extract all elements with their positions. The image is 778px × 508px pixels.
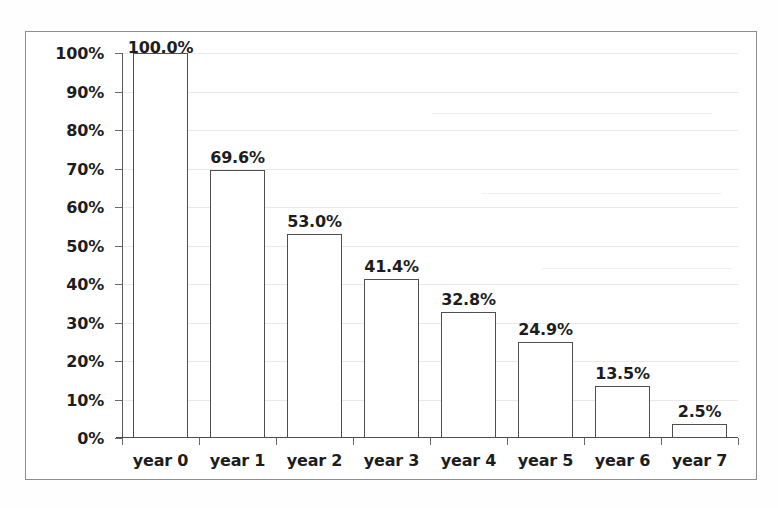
x-axis-tick	[276, 438, 277, 445]
y-axis-tick: 90%	[115, 92, 122, 93]
y-axis-label-0: 0%	[77, 429, 104, 448]
bar-value-label-year-6: 13.5%	[595, 364, 650, 383]
category-label-year-6: year 6	[595, 451, 650, 470]
y-axis-label-80: 80%	[66, 121, 104, 140]
plot-area: 100% 90% 80% 70% 60% 50% 40% 30%	[122, 53, 738, 438]
scanned-page-canvas: 100% 90% 80% 70% 60% 50% 40% 30%	[0, 0, 778, 508]
bar-value-label-year-3: 41.4%	[364, 257, 419, 276]
bar-value-label-year-0: 100.0%	[128, 38, 193, 57]
y-axis-label-90: 90%	[66, 82, 104, 101]
bar-year-6[interactable]	[595, 386, 650, 438]
bar-year-3[interactable]	[364, 279, 419, 438]
x-axis-tick	[122, 438, 123, 445]
y-axis-tick: 40%	[115, 284, 122, 285]
bar-value-label-year-7: 2.5%	[678, 402, 722, 421]
category-label-year-4: year 4	[441, 451, 496, 470]
x-axis-tick	[661, 438, 662, 445]
category-label-year-1: year 1	[210, 451, 265, 470]
y-axis-tick: 60%	[115, 207, 122, 208]
bar-slot-year-1: 69.6% year 1	[199, 53, 276, 438]
x-axis-tick	[199, 438, 200, 445]
bar-slot-year-7: 2.5% year 7	[661, 53, 738, 438]
bar-year-7[interactable]	[672, 424, 727, 438]
bar-year-0[interactable]	[133, 53, 188, 438]
y-axis-label-100: 100%	[55, 44, 104, 63]
y-axis-label-70: 70%	[66, 159, 104, 178]
y-axis-tick: 30%	[115, 323, 122, 324]
bar-value-label-year-2: 53.0%	[287, 212, 342, 231]
bar-slot-year-5: 24.9% year 5	[507, 53, 584, 438]
y-axis-label-50: 50%	[66, 236, 104, 255]
category-label-year-5: year 5	[518, 451, 573, 470]
x-axis-tick	[430, 438, 431, 445]
bar-value-label-year-5: 24.9%	[518, 320, 573, 339]
category-label-year-0: year 0	[133, 451, 188, 470]
y-axis-label-40: 40%	[66, 275, 104, 294]
y-axis-tick: 70%	[115, 169, 122, 170]
x-axis-tick	[507, 438, 508, 445]
x-axis-tick	[353, 438, 354, 445]
category-label-year-7: year 7	[672, 451, 727, 470]
bar-value-label-year-4: 32.8%	[441, 290, 496, 309]
chart-frame-border: 100% 90% 80% 70% 60% 50% 40% 30%	[25, 31, 757, 480]
y-axis-tick: 80%	[115, 130, 122, 131]
y-axis-tick: 100%	[115, 53, 122, 54]
bar-slot-year-4: 32.8% year 4	[430, 53, 507, 438]
category-label-year-3: year 3	[364, 451, 419, 470]
bar-slot-year-2: 53.0% year 2	[276, 53, 353, 438]
y-axis-tick: 50%	[115, 246, 122, 247]
category-label-year-2: year 2	[287, 451, 342, 470]
bar-slot-year-3: 41.4% year 3	[353, 53, 430, 438]
y-axis-label-60: 60%	[66, 198, 104, 217]
bar-value-label-year-1: 69.6%	[210, 148, 265, 167]
bar-year-2[interactable]	[287, 234, 342, 438]
y-axis-tick: 0%	[115, 438, 122, 439]
y-axis-label-30: 30%	[66, 313, 104, 332]
y-axis-tick: 20%	[115, 361, 122, 362]
bar-year-5[interactable]	[518, 342, 573, 438]
x-axis-tick	[584, 438, 585, 445]
x-axis-tick	[738, 438, 739, 445]
bar-year-4[interactable]	[441, 312, 496, 438]
bar-year-1[interactable]	[210, 170, 265, 438]
y-axis-label-10: 10%	[66, 390, 104, 409]
y-axis-label-20: 20%	[66, 352, 104, 371]
bar-slot-year-0: 100.0% year 0	[122, 53, 199, 438]
bar-slot-year-6: 13.5% year 6	[584, 53, 661, 438]
y-axis-tick: 10%	[115, 400, 122, 401]
